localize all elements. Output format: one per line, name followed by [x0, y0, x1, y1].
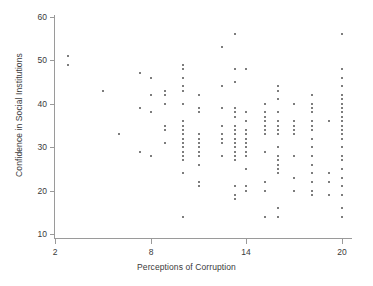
data-point — [293, 125, 295, 127]
data-point — [311, 120, 313, 122]
data-point — [102, 90, 104, 92]
data-point — [293, 129, 295, 131]
data-point — [182, 103, 184, 105]
data-point — [234, 194, 236, 196]
data-point — [164, 142, 166, 144]
data-point — [182, 77, 184, 79]
data-point — [198, 151, 200, 153]
data-point — [221, 133, 223, 135]
data-point — [198, 155, 200, 157]
data-point — [221, 46, 223, 48]
data-point — [311, 138, 313, 140]
data-point — [341, 133, 343, 135]
data-point — [245, 142, 247, 144]
data-point — [277, 120, 279, 122]
data-point — [198, 164, 200, 166]
data-point — [182, 133, 184, 135]
data-point — [264, 116, 266, 118]
data-point — [150, 155, 152, 157]
data-point — [245, 111, 247, 113]
data-point — [234, 111, 236, 113]
data-point — [139, 72, 141, 74]
data-point — [277, 155, 279, 157]
data-point — [221, 125, 223, 127]
data-point — [328, 181, 330, 183]
data-point — [311, 172, 313, 174]
data-point — [182, 146, 184, 148]
data-point — [341, 111, 343, 113]
data-point — [341, 116, 343, 118]
data-point — [182, 125, 184, 127]
scatter-plot-figure: Confidence in Social Institutions Percep… — [0, 0, 373, 286]
data-point — [234, 125, 236, 127]
data-point — [245, 151, 247, 153]
data-point — [182, 142, 184, 144]
data-point — [264, 111, 266, 113]
data-point — [277, 207, 279, 209]
data-point — [341, 129, 343, 131]
data-point — [139, 107, 141, 109]
data-point — [341, 207, 343, 209]
data-point — [341, 94, 343, 96]
data-point — [245, 68, 247, 70]
data-point — [277, 216, 279, 218]
data-point — [234, 159, 236, 161]
plot-data-area — [0, 0, 373, 286]
data-point — [182, 85, 184, 87]
data-point — [341, 98, 343, 100]
data-point — [245, 190, 247, 192]
data-point — [341, 68, 343, 70]
data-point — [341, 216, 343, 218]
data-point — [221, 155, 223, 157]
data-point — [341, 155, 343, 157]
data-point — [221, 138, 223, 140]
data-point — [341, 120, 343, 122]
data-point — [198, 133, 200, 135]
data-point — [234, 33, 236, 35]
data-point — [150, 77, 152, 79]
data-point — [198, 185, 200, 187]
data-point — [150, 94, 152, 96]
data-point — [245, 168, 247, 170]
data-point — [234, 151, 236, 153]
data-point — [341, 107, 343, 109]
data-point — [277, 164, 279, 166]
data-point — [293, 103, 295, 105]
data-point — [198, 111, 200, 113]
data-point — [164, 90, 166, 92]
data-point — [67, 55, 69, 57]
data-point — [341, 168, 343, 170]
data-point — [264, 103, 266, 105]
data-point — [182, 129, 184, 131]
data-point — [293, 133, 295, 135]
data-point — [198, 94, 200, 96]
data-point — [341, 138, 343, 140]
data-point — [182, 90, 184, 92]
data-point — [341, 185, 343, 187]
data-point — [182, 64, 184, 66]
data-point — [245, 138, 247, 140]
data-point — [341, 194, 343, 196]
data-point — [198, 142, 200, 144]
data-point — [293, 120, 295, 122]
data-point — [264, 125, 266, 127]
data-point — [341, 33, 343, 35]
data-point — [311, 190, 313, 192]
data-point — [311, 181, 313, 183]
data-point — [182, 151, 184, 153]
data-point — [234, 107, 236, 109]
data-point — [277, 172, 279, 174]
data-point — [277, 168, 279, 170]
data-point — [311, 164, 313, 166]
data-point — [264, 181, 266, 183]
data-point — [245, 155, 247, 157]
data-point — [311, 107, 313, 109]
data-point — [221, 85, 223, 87]
data-point — [311, 194, 313, 196]
data-point — [277, 98, 279, 100]
data-point — [341, 146, 343, 148]
data-point — [328, 194, 330, 196]
data-point — [277, 146, 279, 148]
data-point — [277, 90, 279, 92]
data-point — [264, 120, 266, 122]
